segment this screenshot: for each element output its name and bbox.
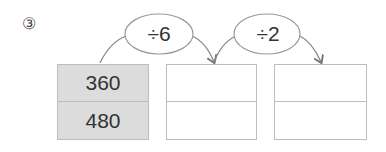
table-answer-1: [166, 64, 257, 140]
operation-divide-2: ÷2: [235, 14, 301, 54]
table-given: 360 480: [57, 64, 149, 140]
table-answer-2: [274, 64, 367, 140]
given-value-1: 360: [58, 65, 148, 102]
operation-divide-6: ÷6: [126, 14, 192, 54]
answer-2-row-1[interactable]: [275, 65, 366, 102]
answer-1-row-2[interactable]: [167, 102, 256, 139]
answer-2-row-2[interactable]: [275, 102, 366, 139]
answer-1-row-1[interactable]: [167, 65, 256, 102]
given-value-2: 480: [58, 102, 148, 139]
